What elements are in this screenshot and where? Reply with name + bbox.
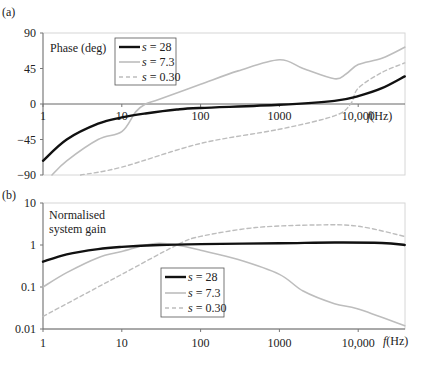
svg-text:s = 7.3: s = 7.3 — [188, 286, 220, 300]
svg-text:45: 45 — [24, 62, 36, 76]
svg-text:0.01: 0.01 — [15, 322, 36, 336]
phase-axis-title: Phase (deg) — [50, 41, 106, 55]
panel-a-phase-chart: (a) 90450−45−90 110100100010,000 Phase (… — [2, 5, 405, 182]
legend-b: s = 28 s = 7.3 s = 0.30 — [161, 268, 226, 317]
svg-text:0.1: 0.1 — [21, 280, 36, 294]
x-axis-label-b: f(Hz) — [383, 334, 408, 348]
svg-text:90: 90 — [24, 26, 36, 40]
x-axis-label-a: f(Hz) — [367, 109, 392, 123]
gain-axis-title-line2: system gain — [49, 222, 106, 236]
svg-text:1: 1 — [40, 336, 46, 350]
svg-text:1: 1 — [30, 238, 36, 252]
svg-text:1000: 1000 — [267, 109, 291, 123]
svg-text:s = 0.30: s = 0.30 — [188, 301, 226, 315]
legend-a: s = 28 s = 7.3 s = 0.30 — [115, 38, 180, 85]
svg-text:1: 1 — [40, 109, 46, 123]
y-ticks-b: 1010.10.01 — [15, 196, 43, 336]
svg-text:s = 7.3: s = 7.3 — [142, 55, 174, 69]
x-ticks-b: 110100100010,000 — [40, 329, 375, 350]
gain-axis-title-line1: Normalised — [49, 208, 105, 222]
svg-text:10,000: 10,000 — [342, 336, 375, 350]
panel-b-gain-chart: (b) 1010.10.01 110100100010,000 Normalis… — [2, 188, 408, 350]
svg-text:1000: 1000 — [267, 336, 291, 350]
svg-text:−90: −90 — [17, 168, 36, 182]
svg-text:−45: −45 — [17, 133, 36, 147]
figure: (a) 90450−45−90 110100100010,000 Phase (… — [0, 0, 424, 366]
series-line — [43, 242, 405, 261]
svg-text:0: 0 — [30, 97, 36, 111]
svg-text:100: 100 — [192, 336, 210, 350]
svg-text:100: 100 — [192, 109, 210, 123]
svg-text:10: 10 — [116, 336, 128, 350]
svg-text:s = 28: s = 28 — [188, 270, 217, 284]
y-ticks-a: 90450−45−90 — [17, 26, 43, 182]
panel-b-label: (b) — [2, 188, 16, 202]
svg-text:s = 28: s = 28 — [142, 40, 171, 54]
svg-text:s = 0.30: s = 0.30 — [142, 70, 180, 84]
svg-text:10: 10 — [24, 196, 36, 210]
panel-a-label: (a) — [2, 5, 15, 19]
